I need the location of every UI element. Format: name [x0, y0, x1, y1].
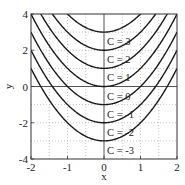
curve-label: C = 0 [107, 91, 130, 102]
curve-label: C = 3 [107, 36, 130, 47]
y-tick-label: 4 [23, 8, 29, 20]
curve-label: C = -3 [107, 145, 134, 156]
curve-label: C = -2 [107, 127, 134, 138]
curve-label: C = 2 [107, 54, 130, 65]
curve-label: C = 1 [107, 72, 130, 83]
y-tick-label: -4 [19, 153, 29, 165]
x-tick-label: 2 [174, 161, 180, 173]
y-tick-label: 2 [23, 44, 29, 56]
y-tick-label: 0 [23, 81, 29, 93]
curve-label: C = -1 [107, 109, 134, 120]
x-tick-label: 1 [138, 161, 144, 173]
y-axis-label: y [2, 83, 14, 89]
x-tick-label: -1 [63, 161, 72, 173]
curve-labels: C = 3C = 2C = 1C = 0C = -1C = -2C = -3 [107, 36, 134, 156]
x-axis-label: x [101, 170, 107, 182]
parabola-family-chart: C = 3C = 2C = 1C = 0C = -1C = -2C = -3 -… [0, 0, 185, 185]
y-tick-label: -2 [19, 117, 28, 129]
